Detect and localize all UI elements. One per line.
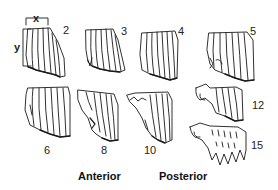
specimen-label-4: 4 — [178, 26, 184, 37]
specimen-6-drawing — [25, 87, 70, 137]
specimen-label-8: 8 — [101, 145, 107, 156]
dimension-label-x: x — [33, 13, 39, 24]
specimen-15-drawing — [190, 123, 246, 165]
specimen-label-6: 6 — [44, 145, 50, 156]
specimen-3-drawing — [86, 29, 125, 72]
specimen-5-drawing — [207, 32, 254, 81]
specimen-label-5: 5 — [250, 26, 256, 37]
specimen-4-drawing — [140, 31, 178, 80]
specimen-label-2: 2 — [63, 25, 69, 36]
specimen-label-12: 12 — [252, 100, 264, 111]
morphology-diagram: x y 2 3 4 5 6 8 10 12 15 Anterior Poster… — [0, 0, 278, 190]
specimen-10-drawing — [127, 92, 172, 143]
specimen-2-drawing — [26, 28, 65, 77]
specimen-label-10: 10 — [144, 145, 156, 156]
dimension-label-y: y — [14, 42, 20, 53]
specimen-label-3: 3 — [121, 26, 127, 37]
posterior-label: Posterior — [159, 170, 207, 182]
anterior-label: Anterior — [78, 170, 121, 182]
specimen-drawings — [0, 0, 278, 190]
specimen-label-15: 15 — [251, 140, 263, 151]
specimen-8-drawing — [78, 90, 118, 141]
specimen-12-drawing — [196, 84, 243, 121]
